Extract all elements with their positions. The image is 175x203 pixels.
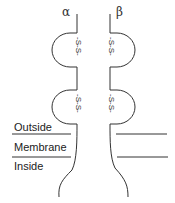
diagram-lines xyxy=(0,0,175,203)
beta-label: β xyxy=(116,6,123,18)
alpha-disulfide-2: -S-S- xyxy=(74,94,82,113)
outside-label: Outside xyxy=(14,122,52,133)
alpha-label: α xyxy=(62,6,70,18)
beta-disulfide-2: -S-S- xyxy=(107,94,115,113)
alpha-disulfide-1: -S-S- xyxy=(74,37,82,56)
membrane-label: Membrane xyxy=(14,142,67,153)
receptor-diagram: α β -S-S- -S-S- -S-S- -S-S- Outside Memb… xyxy=(0,0,175,203)
beta-disulfide-1: -S-S- xyxy=(107,37,115,56)
inside-label: Inside xyxy=(14,161,43,172)
